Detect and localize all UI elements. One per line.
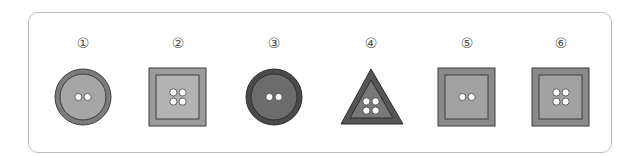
button-hole [170,98,177,105]
square-button-icon [148,66,208,128]
button-hole [553,98,560,105]
item-label: ① [43,34,123,52]
item-label: ③ [234,34,314,52]
item-label: ④ [331,34,411,52]
button-hole [75,93,82,100]
button-item-5: ⑤ [427,0,507,156]
button-face [251,74,297,120]
button-hole [363,107,370,114]
button-face [156,75,199,119]
button-face [445,75,488,119]
button-hole [275,93,282,100]
button-item-2: ② [138,0,218,156]
square-button-icon [437,66,497,128]
button-hole [363,98,370,105]
button-face [60,74,106,120]
item-label: ⑤ [427,34,507,52]
button-hole [459,93,466,100]
button-hole [266,93,273,100]
button-hole [562,89,569,96]
button-hole [179,89,186,96]
button-hole [179,98,186,105]
item-label: ② [138,34,218,52]
button-item-3: ③ [234,0,314,156]
button-hole [372,107,379,114]
button-hole [553,89,560,96]
button-hole [170,89,177,96]
button-item-4: ④ [331,0,411,156]
circle-button-icon [244,66,304,128]
item-label: ⑥ [521,34,601,52]
button-hole [562,98,569,105]
button-item-6: ⑥ [521,0,601,156]
button-hole [372,98,379,105]
button-hole [84,93,91,100]
button-face [539,75,582,119]
button-item-1: ① [43,0,123,156]
square-button-icon [531,66,591,128]
circle-button-icon [53,66,113,128]
button-hole [468,93,475,100]
triangle-button-icon [341,66,401,128]
